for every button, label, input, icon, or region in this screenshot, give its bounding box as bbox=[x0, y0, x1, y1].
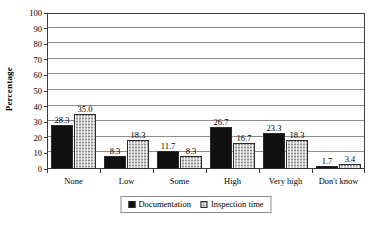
y-axis-tick-label: 40 bbox=[34, 102, 45, 112]
chart-legend: DocumentationInspection time bbox=[120, 196, 271, 213]
y-axis-tick: 0 bbox=[38, 164, 47, 174]
bar-group: 1.73.4 bbox=[312, 13, 365, 169]
y-axis-tick: 70 bbox=[34, 55, 48, 65]
x-axis-label: None bbox=[47, 174, 100, 188]
x-axis-tick-mark bbox=[312, 169, 313, 173]
bars-layer: 28.335.08.318.311.78.326.716.723.318.31.… bbox=[47, 13, 365, 169]
y-axis-tick-label: 60 bbox=[34, 70, 45, 80]
bar-chart: Percentage 0102030405060708090100 28.335… bbox=[0, 0, 392, 227]
y-axis-tick: 50 bbox=[34, 86, 48, 96]
y-axis-tick: 10 bbox=[34, 148, 48, 158]
x-axis-tick-mark bbox=[100, 169, 101, 173]
legend-label: Inspection time bbox=[211, 199, 264, 210]
x-axis-labels: NoneLowSomeHighVery highDon't know bbox=[47, 174, 365, 188]
x-axis-tick-mark bbox=[364, 169, 365, 173]
y-axis-tick: 20 bbox=[34, 133, 48, 143]
x-axis-ticks bbox=[47, 169, 365, 173]
y-axis-tick-label: 30 bbox=[34, 117, 45, 127]
bar-value-label: 16.7 bbox=[237, 133, 252, 143]
bar-value-label: 1.7 bbox=[322, 156, 333, 166]
x-axis-tick-mark bbox=[206, 169, 207, 173]
x-axis-label: Some bbox=[153, 174, 206, 188]
bar-documentation[interactable]: 26.7 bbox=[210, 127, 232, 169]
bar-inspection-time[interactable]: 16.7 bbox=[233, 143, 255, 169]
y-axis-tick-label: 100 bbox=[29, 8, 44, 18]
bar-documentation[interactable]: 11.7 bbox=[157, 151, 179, 169]
bar-inspection-time[interactable]: 18.3 bbox=[286, 140, 308, 169]
x-axis-tick-mark bbox=[153, 169, 154, 173]
bar-value-label: 18.3 bbox=[290, 130, 305, 140]
y-axis-tick: 100 bbox=[29, 8, 47, 18]
bar-value-label: 28.3 bbox=[55, 115, 70, 125]
bar-documentation[interactable]: 28.3 bbox=[51, 125, 73, 169]
bar-value-label: 23.3 bbox=[267, 123, 282, 133]
y-axis-tick: 80 bbox=[34, 39, 48, 49]
y-axis-tick: 60 bbox=[34, 70, 48, 80]
y-axis-tick-label: 90 bbox=[34, 24, 45, 34]
y-axis-ticks: 0102030405060708090100 bbox=[0, 13, 47, 169]
bar-value-label: 3.4 bbox=[345, 154, 356, 164]
bar-value-label: 8.3 bbox=[186, 146, 197, 156]
x-axis-tick-mark bbox=[47, 169, 48, 173]
bar-value-label: 11.7 bbox=[161, 141, 176, 151]
x-axis-label: Don't know bbox=[312, 174, 365, 188]
y-axis-tick-label: 10 bbox=[34, 148, 45, 158]
bar-inspection-time[interactable]: 18.3 bbox=[127, 140, 149, 169]
y-axis-tick: 40 bbox=[34, 102, 48, 112]
bar-inspection-time[interactable]: 8.3 bbox=[180, 156, 202, 169]
y-axis-tick: 90 bbox=[34, 24, 48, 34]
legend-swatch-icon bbox=[128, 201, 135, 208]
bar-group: 23.318.3 bbox=[259, 13, 312, 169]
bar-group: 8.318.3 bbox=[100, 13, 153, 169]
x-axis-tick-mark bbox=[259, 169, 260, 173]
bar-value-label: 35.0 bbox=[78, 104, 93, 114]
x-axis-label: Low bbox=[100, 174, 153, 188]
x-axis-label: Very high bbox=[259, 174, 312, 188]
legend-item[interactable]: Documentation bbox=[128, 199, 190, 210]
bar-value-label: 18.3 bbox=[131, 130, 146, 140]
bar-value-label: 26.7 bbox=[214, 117, 229, 127]
bar-documentation[interactable]: 23.3 bbox=[263, 133, 285, 169]
legend-label: Documentation bbox=[138, 199, 190, 210]
bar-documentation[interactable]: 8.3 bbox=[104, 156, 126, 169]
bar-value-label: 8.3 bbox=[110, 146, 121, 156]
bar-group: 28.335.0 bbox=[47, 13, 100, 169]
bar-group: 26.716.7 bbox=[206, 13, 259, 169]
x-axis-label: High bbox=[206, 174, 259, 188]
y-axis-tick-label: 80 bbox=[34, 39, 45, 49]
bar-inspection-time[interactable]: 35.0 bbox=[74, 114, 96, 169]
bar-group: 11.78.3 bbox=[153, 13, 206, 169]
legend-item[interactable]: Inspection time bbox=[201, 199, 264, 210]
y-axis-tick-label: 70 bbox=[34, 55, 45, 65]
y-axis-tick-label: 20 bbox=[34, 133, 45, 143]
y-axis-tick: 30 bbox=[34, 117, 48, 127]
legend-swatch-icon bbox=[201, 201, 208, 208]
y-axis-tick-label: 50 bbox=[34, 86, 45, 96]
